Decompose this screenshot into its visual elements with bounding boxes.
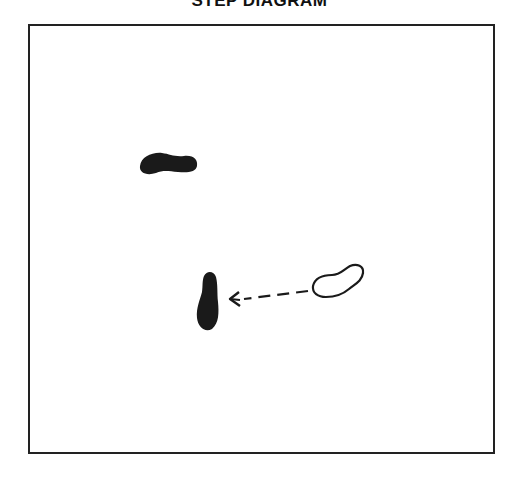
dashed-arrow-left-icon [230,291,308,306]
step-diagram-canvas [0,0,519,484]
footprint-filled-vertical [197,272,219,330]
footprint-filled-horizontal [140,153,197,174]
footprint-outline [313,265,363,297]
